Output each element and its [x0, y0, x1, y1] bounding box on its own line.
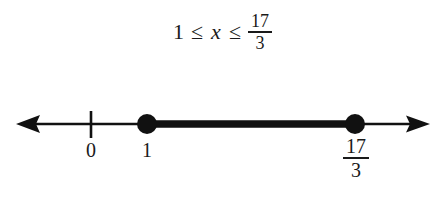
axis-fraction-denominator: 3 [349, 159, 363, 180]
upper-bound-fraction: 17 3 [248, 12, 272, 52]
less-than-or-equal-icon-left: ≤ [191, 21, 203, 43]
variable-x: x [210, 21, 222, 43]
number-line-graphic [0, 96, 445, 202]
endpoint-dot-upper [345, 114, 365, 134]
fraction-denominator: 3 [253, 33, 266, 52]
axis-label-zero: 0 [76, 140, 106, 160]
inequality-expression: 1 ≤ x ≤ 17 3 [0, 12, 445, 52]
axis-fraction-numerator: 17 [344, 136, 368, 157]
axis-label-upper-bound: 17 3 [334, 136, 378, 181]
fraction-numerator: 17 [249, 12, 271, 31]
endpoint-dot-lower [137, 114, 157, 134]
axis-label-fraction: 17 3 [343, 136, 369, 181]
lower-bound-value: 1 [173, 21, 184, 43]
axis-label-one: 1 [132, 140, 162, 160]
number-line-diagram: 0 1 17 3 [0, 96, 445, 202]
inequality-row: 1 ≤ x ≤ 17 3 [173, 12, 272, 52]
less-than-or-equal-icon-right: ≤ [229, 21, 241, 43]
